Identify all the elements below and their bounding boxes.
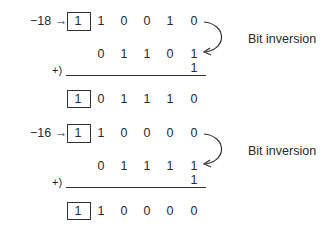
- bit: 1: [140, 159, 154, 173]
- plus-label: +): [52, 175, 62, 189]
- bit: 1: [94, 204, 108, 218]
- bit: 0: [94, 159, 108, 173]
- sum-line: [66, 187, 206, 188]
- bit: 1: [163, 159, 177, 173]
- bit: 1: [117, 159, 131, 173]
- bit: 1: [187, 159, 201, 173]
- bit: 0: [163, 204, 177, 218]
- bit: 0: [187, 204, 201, 218]
- bit: 1: [71, 204, 85, 218]
- bit: 0: [140, 204, 154, 218]
- add-one: 1: [187, 173, 201, 187]
- curved-arrow-icon: [0, 0, 324, 234]
- bit: 0: [117, 204, 131, 218]
- bit-inversion-label: Bit inversion: [248, 144, 316, 158]
